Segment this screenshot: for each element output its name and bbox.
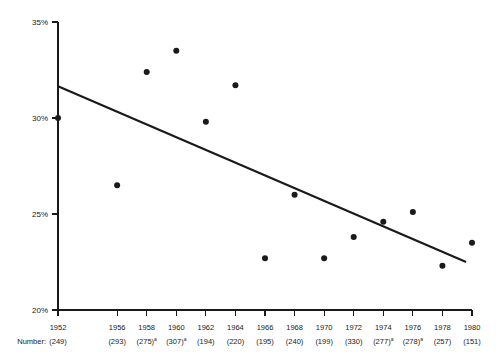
regression-trend-line xyxy=(58,86,466,262)
data-point xyxy=(410,209,416,215)
data-point xyxy=(232,82,238,88)
x-axis-number-label: (220) xyxy=(227,337,245,346)
number-value: (278) xyxy=(403,337,421,346)
x-axis-ticks xyxy=(58,310,472,316)
y-tick-label: 30% xyxy=(32,114,48,123)
number-value: (249) xyxy=(49,337,67,346)
x-axis-year-label: 1952 xyxy=(50,323,67,332)
data-point xyxy=(380,219,386,225)
x-axis-year-label: 1976 xyxy=(405,323,422,332)
data-point xyxy=(351,234,357,240)
x-axis-labels: 1952(249)1956(293)1958(275)a1960(307)a19… xyxy=(49,323,481,346)
number-value: (195) xyxy=(256,337,274,346)
x-axis-number-label: (151) xyxy=(463,337,481,346)
x-axis-number-label: (307)a xyxy=(166,336,187,346)
trend-line-group xyxy=(58,86,466,262)
x-axis-number-label: (293) xyxy=(108,337,126,346)
number-value: (220) xyxy=(227,337,245,346)
x-axis-year-label: 1970 xyxy=(316,323,333,332)
x-axis-year-label: 1964 xyxy=(227,323,244,332)
chart-axis-lines xyxy=(58,22,472,310)
x-axis-year-label: 1978 xyxy=(434,323,451,332)
y-tick-label: 35% xyxy=(32,18,48,27)
footnote-marker: a xyxy=(154,336,157,342)
number-value: (307) xyxy=(166,337,184,346)
number-value: (151) xyxy=(463,337,481,346)
footnote-marker: a xyxy=(184,336,187,342)
x-axis-year-label: 1960 xyxy=(168,323,185,332)
number-value: (293) xyxy=(108,337,126,346)
data-point xyxy=(173,48,179,54)
x-axis-number-label: (195) xyxy=(256,337,274,346)
number-value: (257) xyxy=(434,337,452,346)
number-value: (277) xyxy=(373,337,391,346)
number-value: (275) xyxy=(137,337,155,346)
x-axis-number-label: (277)a xyxy=(373,336,394,346)
number-value: (199) xyxy=(315,337,333,346)
x-axis-number-label: (240) xyxy=(286,337,304,346)
x-axis-number-label: (330) xyxy=(345,337,363,346)
number-value: (330) xyxy=(345,337,363,346)
data-point xyxy=(469,240,475,246)
x-axis-number-label: (194) xyxy=(197,337,215,346)
x-axis-year-label: 1966 xyxy=(257,323,274,332)
x-axis-number-label: (249) xyxy=(49,337,67,346)
footnote-marker: a xyxy=(420,336,423,342)
x-axis-number-label: (199) xyxy=(315,337,333,346)
axes-group xyxy=(58,22,472,310)
chart-container: 20%25%30%35% 1952(249)1956(293)1958(275)… xyxy=(0,0,496,362)
data-point xyxy=(321,255,327,261)
footnote-marker: a xyxy=(391,336,394,342)
data-point xyxy=(262,255,268,261)
x-axis-year-label: 1962 xyxy=(198,323,215,332)
data-point xyxy=(439,263,445,269)
y-tick-label: 25% xyxy=(32,210,48,219)
x-axis-number-label: (278)a xyxy=(403,336,424,346)
y-tick-label: 20% xyxy=(32,306,48,315)
data-point xyxy=(203,119,209,125)
x-axis-year-label: 1958 xyxy=(138,323,155,332)
data-point xyxy=(144,69,150,75)
scatter-plot-svg: 20%25%30%35% 1952(249)1956(293)1958(275)… xyxy=(0,0,496,362)
x-axis-year-label: 1968 xyxy=(286,323,303,332)
x-axis-year-label: 1972 xyxy=(345,323,362,332)
data-point xyxy=(292,192,298,198)
number-row-label-text: Number: xyxy=(17,337,46,346)
number-value: (240) xyxy=(286,337,304,346)
data-point xyxy=(55,115,61,121)
x-axis-year-label: 1980 xyxy=(464,323,481,332)
x-axis-year-label: 1956 xyxy=(109,323,126,332)
x-axis-number-label: (257) xyxy=(434,337,452,346)
y-axis-ticks: 20%25%30%35% xyxy=(32,18,58,315)
x-axis-number-label: (275)a xyxy=(137,336,158,346)
data-point xyxy=(114,182,120,188)
number-row-label: Number: xyxy=(17,337,46,346)
number-value: (194) xyxy=(197,337,215,346)
x-axis-year-label: 1974 xyxy=(375,323,392,332)
data-points-group xyxy=(55,48,475,269)
